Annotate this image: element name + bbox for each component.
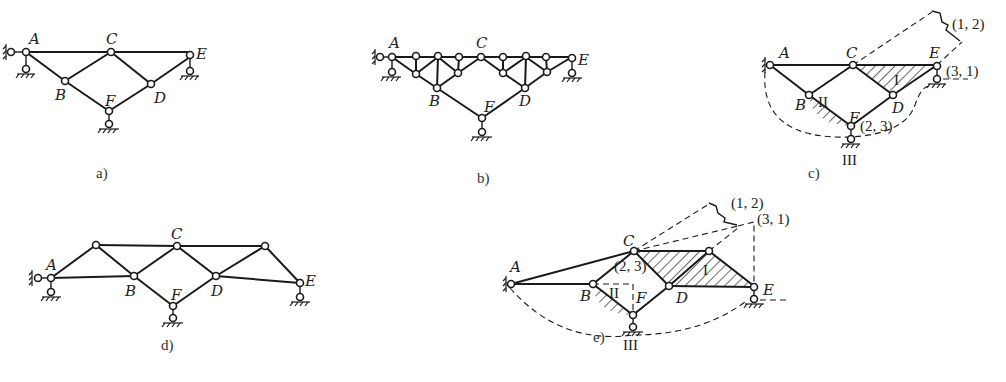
node-label-d: D (153, 89, 166, 107)
node-label-b: B (579, 287, 591, 305)
node-label-e: E (195, 45, 207, 63)
caption-e: e) (593, 329, 605, 346)
node-label-f: F (104, 92, 116, 110)
rigid-body-label-i: I (703, 262, 708, 278)
node-label-c: C (106, 30, 118, 48)
rigid-body-label-i: I (894, 72, 899, 88)
fixed-support-a (503, 276, 506, 292)
node-label-f: F (483, 98, 495, 116)
rigid-body-label-ii: II (818, 94, 828, 110)
pin-support-a (372, 49, 401, 81)
node-label-a: A (508, 258, 521, 276)
node-label-c: C (623, 232, 635, 250)
instant-center-3-1: (3, 1) (946, 63, 979, 80)
node-label-d: D (891, 99, 904, 117)
caption-b: b) (477, 170, 490, 187)
node-label-a: A (387, 34, 400, 52)
node-label-a: A (27, 30, 40, 48)
caption-d: d) (161, 337, 174, 354)
rigid-body-label-ii: II (609, 285, 619, 301)
truss-members (392, 57, 572, 118)
node-label-e: E (577, 51, 589, 69)
node-label-b: B (428, 92, 440, 110)
node-label-e: E (304, 272, 316, 290)
panel-c: A C E B D F I II III (1, 2) (3, 1) (2, 3… (762, 11, 985, 182)
node-label-a: A (777, 44, 790, 62)
caption-a: a) (96, 165, 108, 182)
node-label-c: C (846, 44, 858, 62)
rigid-body-label-iii: III (842, 152, 857, 168)
node-label-e: E (762, 281, 774, 299)
node-label-e: E (928, 44, 940, 62)
node-label-f: F (848, 109, 860, 127)
instant-center-3-1: (3, 1) (757, 211, 790, 228)
instant-center-2-3: (2, 3) (614, 258, 647, 275)
caption-c: c) (808, 165, 820, 182)
instant-center-construction-lines (510, 204, 790, 336)
node-label-d: D (518, 92, 531, 110)
pin-support-a (3, 44, 35, 78)
fixed-support-a (762, 57, 765, 73)
panel-d: A C E B D F d) (29, 225, 316, 354)
node-label-c: C (171, 225, 183, 243)
instant-center-1-2: (1, 2) (731, 195, 764, 212)
node-label-d: D (210, 282, 223, 300)
panel-b: A C E B D F b) (372, 34, 589, 187)
rigid-body-label-iii: III (623, 337, 638, 353)
panel-e: A C E B D F I II III (1, 2) (3, 1) (2, 3… (503, 195, 790, 353)
instant-center-1-2: (1, 2) (952, 16, 985, 33)
node-label-d: D (675, 289, 688, 307)
node-label-c: C (476, 34, 488, 52)
node-label-a: A (44, 256, 57, 274)
node-label-f: F (635, 289, 647, 307)
truss-figure: A C E B D F a) (0, 0, 1006, 382)
panel-a: A C E B D F a) (3, 30, 207, 182)
node-label-b: B (124, 282, 136, 300)
node-label-b: B (54, 86, 66, 104)
node-label-b: B (794, 96, 806, 114)
node-label-f: F (170, 286, 182, 304)
roller-support-e (744, 289, 764, 308)
instant-center-2-3: (2, 3) (860, 118, 893, 135)
